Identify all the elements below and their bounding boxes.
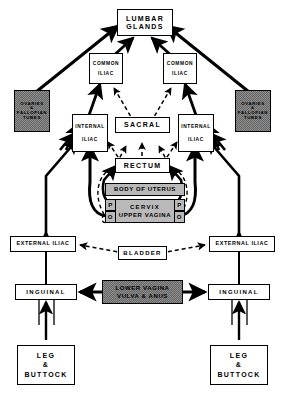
paracervical-left-label: P [108, 202, 113, 208]
node-paracervical-right[interactable]: P [174, 199, 185, 211]
lumbar-glands-line1: LUMBAR [126, 15, 164, 22]
node-inguinal-left[interactable]: INGUINAL [15, 284, 77, 300]
external-iliac-left-label: EXTERNAL ILIAC [17, 241, 70, 247]
obturator-left-label: O [108, 214, 113, 220]
internal-iliac-right-line1: INTERNAL [181, 124, 211, 129]
node-external-iliac-right[interactable]: EXTERNAL ILIAC [209, 236, 275, 252]
common-iliac-left-line1: COMMON [93, 61, 119, 66]
lower-vagina-line2: VULVA & ANUS [117, 293, 168, 299]
leg-buttock-left-line3: BUTTOCK [24, 371, 67, 378]
lymphatic-flow-arrows [0, 0, 285, 396]
node-obturator-left[interactable]: O [105, 211, 116, 223]
leg-buttock-right-line3: BUTTOCK [217, 371, 260, 378]
node-body-of-uterus[interactable]: BODY OF UTERUS [105, 183, 185, 196]
node-sacral[interactable]: SACRAL [115, 117, 170, 133]
common-iliac-right-line1: COMMON [167, 61, 193, 66]
node-obturator-right[interactable]: O [174, 211, 185, 223]
ovaries-right-line4: TUBES [244, 116, 262, 121]
lower-vagina-line1: LOWER VAGINA [115, 285, 169, 291]
node-external-iliac-left[interactable]: EXTERNAL ILIAC [10, 236, 76, 252]
node-common-iliac-left[interactable]: COMMON ILIAC [89, 53, 123, 84]
paracervical-right-label: P [177, 202, 182, 208]
leg-buttock-left-line1: LEG [37, 352, 55, 359]
common-iliac-right-line2: ILIAC [172, 71, 188, 76]
ovaries-left-line4: TUBES [23, 116, 41, 121]
node-bladder[interactable]: BLADDER [118, 246, 167, 260]
node-internal-iliac-left[interactable]: INTERNAL ILIAC [72, 114, 108, 152]
node-leg-buttock-right[interactable]: LEG & BUTTOCK [210, 345, 268, 385]
internal-iliac-left-line1: INTERNAL [75, 124, 105, 129]
inguinal-right-label: INGUINAL [219, 289, 258, 295]
external-iliac-right-label: EXTERNAL ILIAC [216, 241, 269, 247]
body-of-uterus-label: BODY OF UTERUS [114, 186, 176, 192]
obturator-right-label: O [177, 214, 182, 220]
cervix-block: P O P O CERVIX UPPER VAGINA [105, 199, 185, 223]
node-inguinal-right[interactable]: INGUINAL [208, 284, 270, 300]
node-ovaries-fallopian-right[interactable]: OVARIES & FALLOPIAN TUBES [235, 90, 271, 132]
bladder-label: BLADDER [123, 250, 161, 256]
node-cervix-upper-vagina[interactable]: CERVIX UPPER VAGINA [116, 199, 174, 223]
inguinal-left-label: INGUINAL [26, 289, 65, 295]
node-ovaries-fallopian-left[interactable]: OVARIES & FALLOPIAN TUBES [14, 90, 50, 132]
leg-buttock-right-line2: & [236, 361, 242, 368]
leg-buttock-right-line1: LEG [230, 352, 248, 359]
internal-iliac-left-line2: ILIAC [82, 137, 98, 142]
node-paracervical-left[interactable]: P [105, 199, 116, 211]
sacral-label: SACRAL [124, 121, 161, 128]
cervix-line2: UPPER VAGINA [119, 212, 171, 218]
cervix-line1: CERVIX [130, 204, 160, 210]
node-common-iliac-right[interactable]: COMMON ILIAC [163, 53, 197, 84]
node-leg-buttock-left[interactable]: LEG & BUTTOCK [17, 345, 75, 385]
node-lumbar-glands[interactable]: LUMBAR GLANDS [117, 9, 173, 36]
node-internal-iliac-right[interactable]: INTERNAL ILIAC [178, 114, 214, 152]
leg-buttock-left-line2: & [43, 361, 49, 368]
node-lower-vagina-vulva-anus[interactable]: LOWER VAGINA VULVA & ANUS [102, 280, 183, 304]
common-iliac-left-line2: ILIAC [98, 71, 114, 76]
rectum-label: RECTUM [124, 162, 162, 169]
lumbar-glands-line2: GLANDS [126, 23, 163, 30]
node-rectum[interactable]: RECTUM [115, 158, 170, 173]
diagram-canvas: LUMBAR GLANDS COMMON ILIAC COMMON ILIAC … [0, 0, 285, 396]
internal-iliac-right-line2: ILIAC [188, 137, 204, 142]
